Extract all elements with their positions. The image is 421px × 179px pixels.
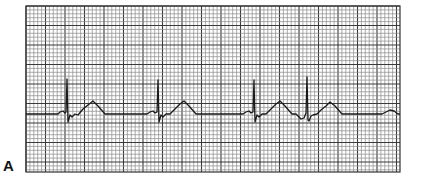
ecg-grid <box>26 6 400 172</box>
ecg-strip <box>0 0 421 179</box>
